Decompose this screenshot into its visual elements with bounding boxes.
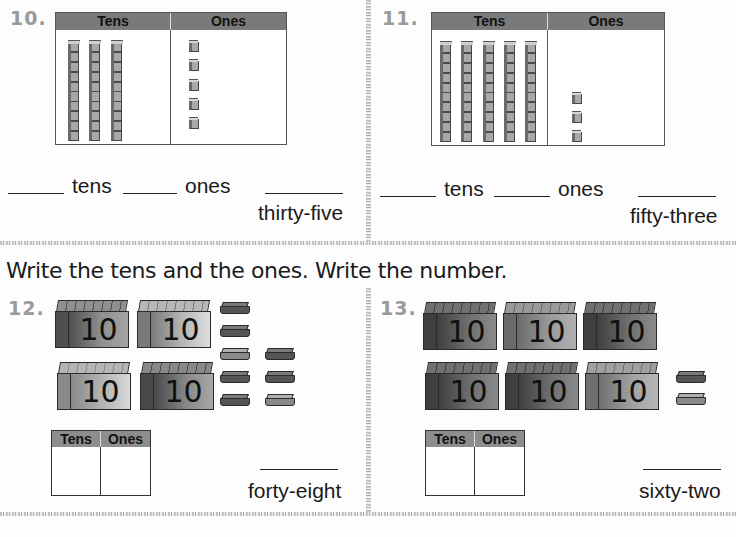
tens-label: tens bbox=[72, 174, 112, 198]
problem-number: 10. bbox=[10, 7, 47, 29]
ones-cell bbox=[171, 30, 286, 144]
vertical-divider-bottom bbox=[366, 288, 371, 514]
tens-label: tens bbox=[444, 177, 484, 201]
tens-ones-answer-table: Tens Ones bbox=[425, 430, 525, 496]
ones-answer-cell[interactable] bbox=[101, 447, 150, 495]
ones-header: Ones bbox=[171, 13, 286, 30]
ten-rod-icon bbox=[525, 43, 536, 142]
one-tile-icon bbox=[265, 394, 295, 406]
one-tile-icon bbox=[220, 302, 250, 314]
unit-cube-icon bbox=[189, 61, 199, 71]
unit-cube-icon bbox=[189, 100, 199, 110]
tens-answer-blank[interactable] bbox=[380, 196, 436, 197]
tens-cell bbox=[432, 30, 548, 145]
one-tile-icon bbox=[265, 371, 295, 383]
tens-header: Tens bbox=[432, 13, 548, 30]
horizontal-divider-top bbox=[0, 241, 736, 245]
number-answer-blank[interactable] bbox=[265, 193, 343, 194]
one-tile-icon bbox=[265, 348, 295, 360]
tens-ones-answer-table: Tens Ones bbox=[51, 430, 151, 496]
ten-box-icon: 10 bbox=[423, 302, 497, 352]
number-word: sixty-two bbox=[639, 479, 721, 503]
ones-label: ones bbox=[185, 174, 231, 198]
unit-cube-icon bbox=[189, 119, 199, 129]
number-answer-blank[interactable] bbox=[260, 469, 338, 470]
number-answer-blank[interactable] bbox=[643, 469, 721, 470]
ten-rod-icon bbox=[111, 42, 122, 141]
tens-answer-cell[interactable] bbox=[52, 447, 101, 495]
tens-header: Tens bbox=[56, 13, 171, 30]
problem-number: 13. bbox=[380, 297, 417, 319]
tens-answer-cell[interactable] bbox=[426, 447, 475, 495]
unit-cube-icon bbox=[572, 132, 582, 142]
tens-header: Tens bbox=[426, 431, 475, 447]
ones-answer-cell[interactable] bbox=[475, 447, 524, 495]
ten-rod-icon bbox=[89, 42, 100, 141]
ten-box-icon: 10 bbox=[57, 362, 131, 412]
ones-answer-blank[interactable] bbox=[494, 196, 550, 197]
tens-answer-blank[interactable] bbox=[8, 193, 64, 194]
ten-rod-icon bbox=[483, 43, 494, 142]
number-answer-blank[interactable] bbox=[638, 196, 716, 197]
one-tile-icon bbox=[220, 325, 250, 337]
place-value-table: Tens Ones bbox=[431, 12, 665, 146]
ten-box-icon: 10 bbox=[583, 302, 657, 352]
problem-number: 12. bbox=[8, 297, 45, 319]
problem-number: 11. bbox=[382, 7, 419, 29]
ones-label: ones bbox=[558, 177, 604, 201]
ten-rod-icon bbox=[461, 43, 472, 142]
number-word: fifty-three bbox=[630, 204, 718, 228]
ones-answer-blank[interactable] bbox=[123, 193, 177, 194]
unit-cube-icon bbox=[189, 81, 199, 91]
one-tile-icon bbox=[220, 394, 250, 406]
number-word: thirty-five bbox=[258, 201, 343, 225]
ten-box-icon: 10 bbox=[503, 302, 577, 352]
horizontal-divider-bottom bbox=[0, 512, 736, 516]
one-tile-icon bbox=[220, 371, 250, 383]
ten-box-icon: 10 bbox=[585, 362, 659, 412]
unit-cube-icon bbox=[189, 42, 199, 52]
number-word: forty-eight bbox=[248, 479, 341, 503]
ten-box-icon: 10 bbox=[55, 300, 129, 350]
ones-header: Ones bbox=[475, 431, 524, 447]
ones-cell bbox=[548, 30, 664, 145]
instruction-text: Write the tens and the ones. Write the n… bbox=[6, 258, 507, 283]
tens-cell bbox=[56, 30, 171, 144]
one-tile-icon bbox=[220, 348, 250, 360]
ones-header: Ones bbox=[548, 13, 664, 30]
unit-cube-icon bbox=[572, 113, 582, 123]
ten-rod-icon bbox=[68, 42, 79, 141]
vertical-divider-top bbox=[366, 0, 371, 243]
ten-rod-icon bbox=[504, 43, 515, 142]
ones-header: Ones bbox=[101, 431, 150, 447]
ten-rod-icon bbox=[440, 43, 451, 142]
ten-box-icon: 10 bbox=[137, 300, 211, 350]
one-tile-icon bbox=[676, 393, 706, 405]
ten-box-icon: 10 bbox=[140, 362, 214, 412]
unit-cube-icon bbox=[572, 94, 582, 104]
one-tile-icon bbox=[676, 371, 706, 383]
ten-box-icon: 10 bbox=[505, 362, 579, 412]
place-value-table: Tens Ones bbox=[55, 12, 287, 145]
ten-box-icon: 10 bbox=[425, 362, 499, 412]
tens-header: Tens bbox=[52, 431, 101, 447]
